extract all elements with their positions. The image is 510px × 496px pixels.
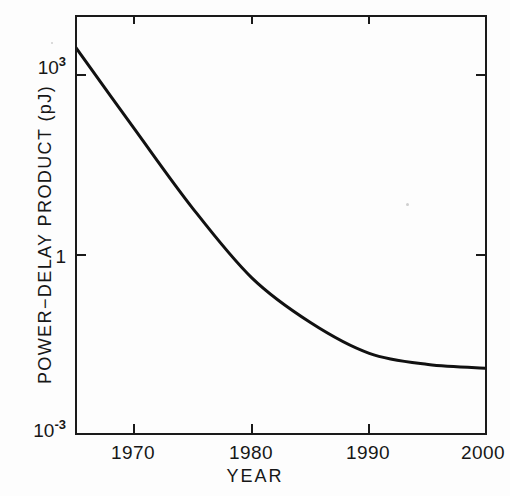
- x-tick-1970-bottom: [133, 424, 135, 433]
- x-tick-1980-top: [251, 15, 253, 24]
- plot-area-frame: [75, 15, 487, 435]
- y-tick-label-1e3-exponent: 3: [59, 54, 66, 69]
- y-tick-1-left: [75, 254, 86, 256]
- figure-power-delay-product-vs-year: 1970 1980 1990 2000 103 1 10-3 POWER−DEL…: [0, 0, 510, 496]
- y-tick-label-1e-3: 10-3: [2, 418, 66, 439]
- y-tick-1-right: [476, 254, 487, 256]
- y-tick-label-1e-3-exponent: -3: [54, 417, 66, 432]
- y-axis-title: POWER−DELAY PRODUCT (pJ): [35, 70, 56, 400]
- x-axis-title: YEAR: [0, 466, 510, 487]
- scan-speckle: [51, 42, 53, 44]
- y-tick-1e3-left: [75, 74, 86, 76]
- x-tick-1990-bottom: [368, 424, 370, 433]
- y-tick-1e3-right: [476, 74, 487, 76]
- x-tick-label-1990: 1990: [346, 443, 390, 462]
- x-tick-1990-top: [368, 15, 370, 24]
- x-tick-1970-top: [133, 15, 135, 24]
- x-tick-label-2000: 2000: [461, 443, 505, 462]
- x-tick-label-1980: 1980: [229, 443, 273, 462]
- x-tick-1980-bottom: [251, 424, 253, 433]
- y-tick-label-1-mantissa: 1: [55, 246, 66, 267]
- x-tick-label-1970: 1970: [111, 443, 155, 462]
- y-tick-label-1e-3-mantissa: 10: [33, 420, 54, 441]
